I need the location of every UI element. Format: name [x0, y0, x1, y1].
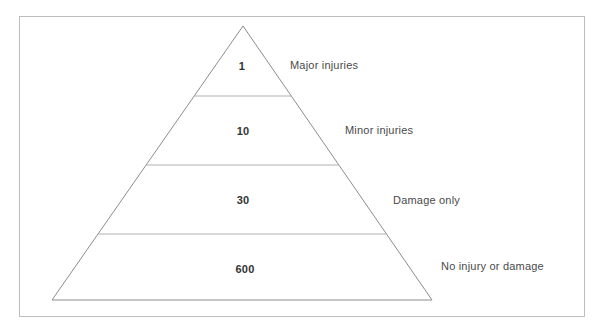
tier-count-damage-only: 30: [237, 194, 250, 206]
tier-count-major-injuries: 1: [239, 60, 245, 72]
tier-label-major-injuries: Major injuries: [290, 59, 358, 71]
tier-label-no-injury-or-damage: No injury or damage: [441, 260, 544, 272]
accident-pyramid-diagram: 1 Major injuries 10 Minor injuries 30 Da…: [0, 0, 602, 327]
pyramid-graphic: [0, 0, 602, 327]
tier-count-no-injury-or-damage: 600: [236, 263, 255, 275]
tier-count-minor-injuries: 10: [237, 125, 250, 137]
tier-label-damage-only: Damage only: [393, 194, 460, 206]
tier-label-minor-injuries: Minor injuries: [345, 124, 413, 136]
